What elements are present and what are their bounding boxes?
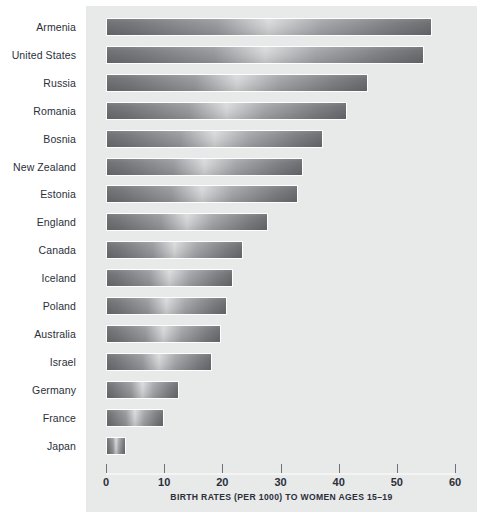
x-axis-tick-label: 60: [435, 476, 475, 488]
x-axis-tick-mark: [455, 464, 456, 473]
bar-row: Canada: [0, 240, 480, 260]
bar-row: Germany: [0, 380, 480, 400]
bar-row: England: [0, 212, 480, 232]
x-axis-caption: BIRTH RATES (PER 1000) TO WOMEN AGES 15–…: [86, 492, 477, 502]
bar-row: Poland: [0, 296, 480, 316]
x-axis-tick-mark: [222, 464, 223, 473]
bar-row: United States: [0, 45, 480, 65]
bar-row: Iceland: [0, 268, 480, 288]
bar-category-label: Estonia: [0, 184, 76, 204]
bar-category-label: Poland: [0, 296, 76, 316]
x-axis-line: [106, 473, 455, 475]
bar-category-label: Australia: [0, 324, 76, 344]
x-axis-tick-label: 30: [261, 476, 301, 488]
bar: [106, 353, 212, 371]
bar-row: Israel: [0, 352, 480, 372]
bar: [106, 130, 323, 148]
bar: [106, 381, 179, 399]
bar-category-label: Romania: [0, 101, 76, 121]
bar-category-label: Bosnia: [0, 129, 76, 149]
x-axis-tick-mark: [106, 464, 107, 473]
bar-track: [106, 74, 368, 92]
x-axis-tick-label: 20: [202, 476, 242, 488]
bar-track: [106, 46, 424, 64]
bar-category-label: Iceland: [0, 268, 76, 288]
bar-track: [106, 437, 126, 455]
bar-track: [106, 353, 212, 371]
x-axis-tick-mark: [164, 464, 165, 473]
bar-track: [106, 213, 268, 231]
x-axis-tick-mark: [339, 464, 340, 473]
bar-track: [106, 325, 221, 343]
bar-row: Armenia: [0, 17, 480, 37]
bar: [106, 18, 432, 36]
x-axis-tick-label: 40: [319, 476, 359, 488]
bar-track: [106, 241, 243, 259]
bar-category-label: Japan: [0, 436, 76, 456]
bar-track: [106, 269, 233, 287]
bar-category-label: Israel: [0, 352, 76, 372]
bar-category-label: England: [0, 212, 76, 232]
x-axis: 0102030405060: [0, 462, 480, 512]
bar-row: Bosnia: [0, 129, 480, 149]
bar-track: [106, 18, 432, 36]
bar-track: [106, 185, 298, 203]
bar: [106, 325, 221, 343]
bar: [106, 74, 368, 92]
bar: [106, 297, 227, 315]
birth-rates-bar-chart: ArmeniaUnited StatesRussiaRomaniaBosniaN…: [0, 0, 480, 525]
bar-category-label: New Zealand: [0, 157, 76, 177]
bar: [106, 213, 268, 231]
bar-category-label: France: [0, 408, 76, 428]
bar-track: [106, 381, 179, 399]
bar-track: [106, 158, 303, 176]
bar-row: Japan: [0, 436, 480, 456]
bar: [106, 158, 303, 176]
bar: [106, 102, 347, 120]
bar-track: [106, 130, 323, 148]
bar-track: [106, 102, 347, 120]
x-axis-tick-mark: [397, 464, 398, 473]
x-axis-tick-mark: [281, 464, 282, 473]
bar-row: Russia: [0, 73, 480, 93]
bar-row: Romania: [0, 101, 480, 121]
bar: [106, 269, 233, 287]
bar: [106, 437, 126, 455]
bar-track: [106, 297, 227, 315]
bar-row: Australia: [0, 324, 480, 344]
bar-rows-container: ArmeniaUnited StatesRussiaRomaniaBosniaN…: [0, 0, 480, 525]
bar-row: France: [0, 408, 480, 428]
bar: [106, 241, 243, 259]
bar: [106, 409, 164, 427]
bar-category-label: Canada: [0, 240, 76, 260]
bar-category-label: Germany: [0, 380, 76, 400]
bar: [106, 185, 298, 203]
bar-category-label: Russia: [0, 73, 76, 93]
bar-category-label: United States: [0, 45, 76, 65]
bar-track: [106, 409, 164, 427]
x-axis-tick-label: 10: [144, 476, 184, 488]
bar-row: New Zealand: [0, 157, 480, 177]
bar: [106, 46, 424, 64]
bar-category-label: Armenia: [0, 17, 76, 37]
x-axis-tick-label: 0: [86, 476, 126, 488]
bar-row: Estonia: [0, 184, 480, 204]
x-axis-tick-label: 50: [377, 476, 417, 488]
